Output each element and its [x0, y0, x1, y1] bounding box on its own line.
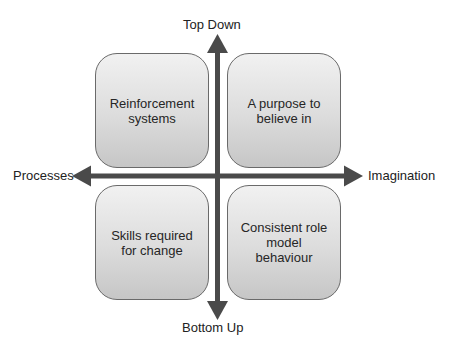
- axis-label-right: Imagination: [368, 168, 435, 183]
- quadrant-bottom-right-text: Consistent role model behaviour: [235, 220, 334, 265]
- arrow-up-icon: [207, 34, 228, 53]
- quadrant-diagram: Top Down Bottom Up Processes Imagination…: [0, 0, 449, 349]
- axis-label-top: Top Down: [183, 17, 241, 32]
- quadrant-top-left: Reinforcement systems: [95, 53, 209, 168]
- arrow-right-icon: [344, 166, 363, 187]
- arrow-down-icon: [207, 301, 228, 320]
- horizontal-axis-line: [88, 174, 346, 179]
- quadrant-bottom-left-text: Skills required for change: [105, 228, 199, 258]
- axis-label-bottom: Bottom Up: [182, 320, 243, 335]
- quadrant-top-left-text: Reinforcement systems: [104, 96, 201, 126]
- quadrant-bottom-left: Skills required for change: [95, 185, 209, 300]
- quadrant-top-right-text: A purpose to believe in: [242, 96, 327, 126]
- quadrant-top-right: A purpose to believe in: [227, 53, 341, 168]
- arrow-left-icon: [72, 166, 91, 187]
- axis-label-left: Processes: [13, 168, 74, 183]
- quadrant-bottom-right: Consistent role model behaviour: [227, 185, 341, 300]
